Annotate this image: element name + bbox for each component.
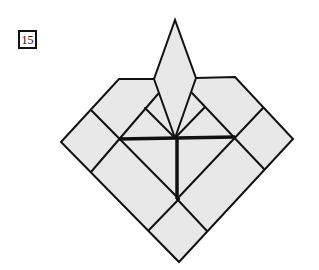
origami-diagram — [0, 0, 319, 270]
